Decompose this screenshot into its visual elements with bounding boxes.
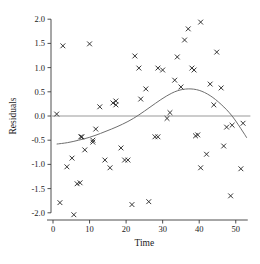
x-tick-label: 40 [195,224,204,234]
data-point-marker [228,193,233,198]
data-point-marker [165,116,170,121]
y-tick-label: -1.0 [32,159,45,169]
x-axis-title: Time [135,238,155,248]
data-point-marker [238,166,243,171]
data-point-marker [168,110,173,115]
data-point-marker [182,38,187,43]
data-point-marker [132,54,137,59]
data-point-marker [230,123,235,128]
data-point-marker [156,66,161,71]
data-point-marker [241,121,246,126]
data-point-marker [179,85,184,90]
data-point-marker [186,26,191,31]
data-point-marker [160,68,165,73]
data-point-marker [108,165,113,170]
y-tick-label: 1.0 [34,63,45,73]
data-point-marker [146,199,151,204]
data-point-marker [156,134,161,139]
y-tick-label: -0.5 [32,135,45,145]
y-tick-label: 0.5 [34,87,45,97]
data-point-marker [87,41,92,46]
y-axis-title: Residuals [8,97,18,134]
x-tick-label: 10 [85,224,94,234]
data-point-marker [60,43,65,48]
x-axis-ticks: 01020304050 [51,220,240,234]
y-tick-label: 0.0 [34,111,45,121]
x-tick-label: 30 [158,224,167,234]
data-point-marker [103,158,108,163]
data-point-marker [172,78,177,83]
x-tick-label: 0 [51,224,55,234]
x-tick-label: 50 [232,224,241,234]
data-point-marker [198,165,203,170]
y-tick-label: -2.0 [32,208,45,218]
data-point-marker [198,20,203,25]
data-point-marker [219,86,224,91]
y-tick-label: 2.0 [34,14,45,24]
data-point-marker [224,125,229,130]
data-point-marker [97,104,102,109]
data-point-marker [204,152,209,157]
data-points-group [54,20,245,217]
y-tick-label: 1.5 [34,38,45,48]
x-tick-label: 20 [122,224,131,234]
plot-canvas: -2.0-1.5-1.0-0.50.00.51.01.52.0 01020304… [0,0,260,264]
residuals-scatter-chart: -2.0-1.5-1.0-0.50.00.51.01.52.0 01020304… [0,0,260,264]
data-point-marker [82,147,87,152]
data-point-marker [192,68,197,73]
data-point-marker [70,156,75,161]
data-point-marker [71,212,76,217]
data-point-marker [138,97,143,102]
data-point-marker [136,66,141,71]
data-point-marker [126,158,131,163]
data-point-marker [221,144,226,149]
data-point-marker [130,202,135,207]
data-point-marker [119,146,124,151]
data-point-marker [143,87,148,92]
data-point-marker [208,82,213,87]
data-point-marker [214,50,219,55]
data-point-marker [211,102,216,107]
y-tick-label: -1.5 [32,184,45,194]
data-point-marker [58,200,63,205]
data-point-marker [113,102,118,107]
data-point-marker [93,127,98,132]
y-axis-ticks: -2.0-1.5-1.0-0.50.00.51.01.52.0 [32,14,51,218]
data-point-marker [64,164,69,169]
data-point-marker [175,55,180,60]
data-point-marker [111,101,116,106]
